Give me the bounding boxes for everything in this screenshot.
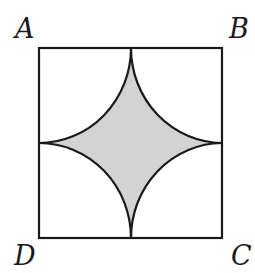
shaded-region [39,48,222,238]
vertex-label-c: C [231,242,252,269]
vertex-label-b: B [229,15,249,42]
vertex-label-a: A [15,15,35,42]
vertex-label-d: D [14,242,36,269]
figure-canvas [0,0,255,273]
square-arcs-figure: A B C D [0,0,255,273]
